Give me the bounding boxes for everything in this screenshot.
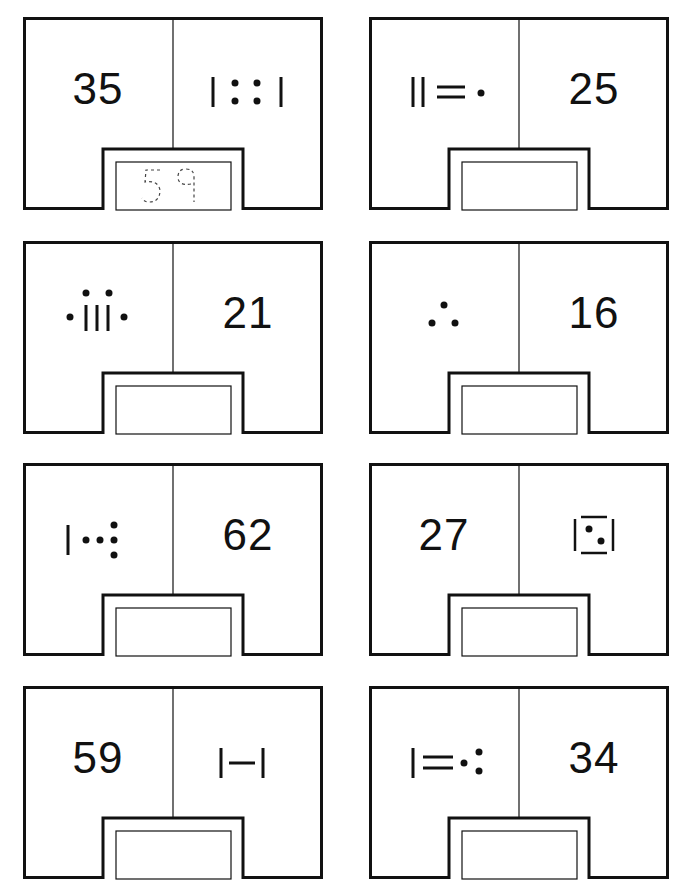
answer-text (462, 162, 577, 210)
answer-box[interactable] (116, 162, 231, 210)
numeral-glyph-icon (369, 57, 519, 121)
answer-box[interactable] (116, 831, 231, 879)
answer-box[interactable] (116, 386, 231, 434)
numeral-glyph-icon (23, 281, 173, 345)
answer-text (116, 831, 231, 879)
card-6: 27 (369, 463, 669, 656)
answer-text (116, 608, 231, 656)
answer-box[interactable] (462, 162, 577, 210)
number-value: 25 (519, 65, 669, 113)
answer-text (462, 386, 577, 434)
numeral-glyph-icon (369, 726, 519, 790)
answer-text (116, 386, 231, 434)
answer-box[interactable] (116, 608, 231, 656)
card-3: 21 (23, 241, 323, 434)
card-2: 25 (369, 17, 669, 210)
answer-box[interactable] (462, 386, 577, 434)
card-5: 62 (23, 463, 323, 656)
number-value: 34 (519, 734, 669, 782)
card-4: 16 (369, 241, 669, 434)
card-7: 59 (23, 686, 323, 879)
number-value: 27 (369, 511, 519, 559)
number-value: 16 (519, 289, 669, 337)
numeral-glyph-icon (23, 503, 173, 567)
number-value: 21 (173, 289, 323, 337)
answer-box[interactable] (462, 608, 577, 656)
numeral-glyph-icon (369, 281, 519, 345)
number-value: 59 (23, 734, 173, 782)
answer-text (462, 608, 577, 656)
card-8: 34 (369, 686, 669, 879)
number-value: 62 (173, 511, 323, 559)
answer-text (462, 831, 577, 879)
number-value: 35 (23, 65, 173, 113)
numeral-glyph-icon (173, 57, 323, 121)
card-1: 35 (23, 17, 323, 210)
answer-trace-59 (116, 162, 231, 210)
answer-box[interactable] (462, 831, 577, 879)
numeral-glyph-icon (519, 503, 669, 567)
numeral-glyph-icon (173, 726, 323, 790)
